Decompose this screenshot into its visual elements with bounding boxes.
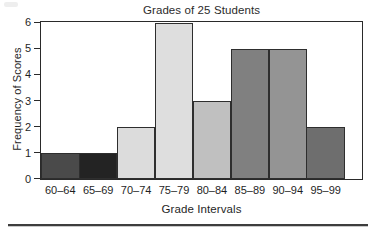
y-tick-label: 6: [18, 15, 31, 29]
bar-70-74: [117, 127, 156, 179]
y-tick-label: 2: [18, 120, 31, 134]
y-tick-mark: [34, 152, 40, 153]
y-tick-label: 1: [18, 146, 31, 160]
bar-90-94: [269, 49, 308, 179]
bar-65-69: [79, 153, 118, 179]
scan-artifact: [4, 2, 18, 7]
y-tick-label: 4: [18, 67, 31, 81]
y-tick-label: 5: [18, 41, 31, 55]
bar-85-89: [231, 49, 270, 179]
bar-95-99: [306, 127, 345, 179]
x-axis-title: Grade Intervals: [40, 203, 363, 215]
y-tick-mark: [34, 100, 40, 101]
y-tick-label: 0: [18, 172, 31, 186]
bar-75-79: [155, 23, 194, 179]
y-tick-mark: [34, 22, 40, 23]
histogram-figure: Grades of 25 Students Frequency of Score…: [0, 0, 376, 237]
plot-inner: [41, 22, 362, 179]
bar-series: [41, 22, 362, 179]
plot-area: [40, 21, 363, 180]
bottom-divider-shadow: [8, 226, 368, 227]
x-tick-label-95-99: 95–99: [304, 183, 348, 197]
bar-80-84: [193, 101, 232, 179]
y-tick-mark: [34, 74, 40, 75]
y-tick-mark: [34, 48, 40, 49]
y-tick-mark: [34, 126, 40, 127]
bar-60-64: [41, 153, 80, 179]
chart-title: Grades of 25 Students: [40, 3, 363, 17]
y-tick-mark: [34, 178, 40, 179]
y-tick-label: 3: [18, 94, 31, 108]
